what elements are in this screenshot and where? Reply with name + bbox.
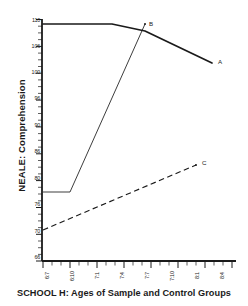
series-line-a bbox=[43, 24, 212, 63]
x-major-ticks bbox=[43, 261, 232, 268]
chart-figure: NEALE: Comprehension SCHOOL H: Ages of S… bbox=[0, 0, 248, 306]
chart-plot-area bbox=[0, 0, 248, 306]
series-line-c bbox=[43, 165, 196, 230]
series-c-endpoint-marker bbox=[195, 164, 197, 166]
series-line-b bbox=[43, 24, 145, 192]
series-b-endpoint-marker bbox=[144, 23, 146, 25]
